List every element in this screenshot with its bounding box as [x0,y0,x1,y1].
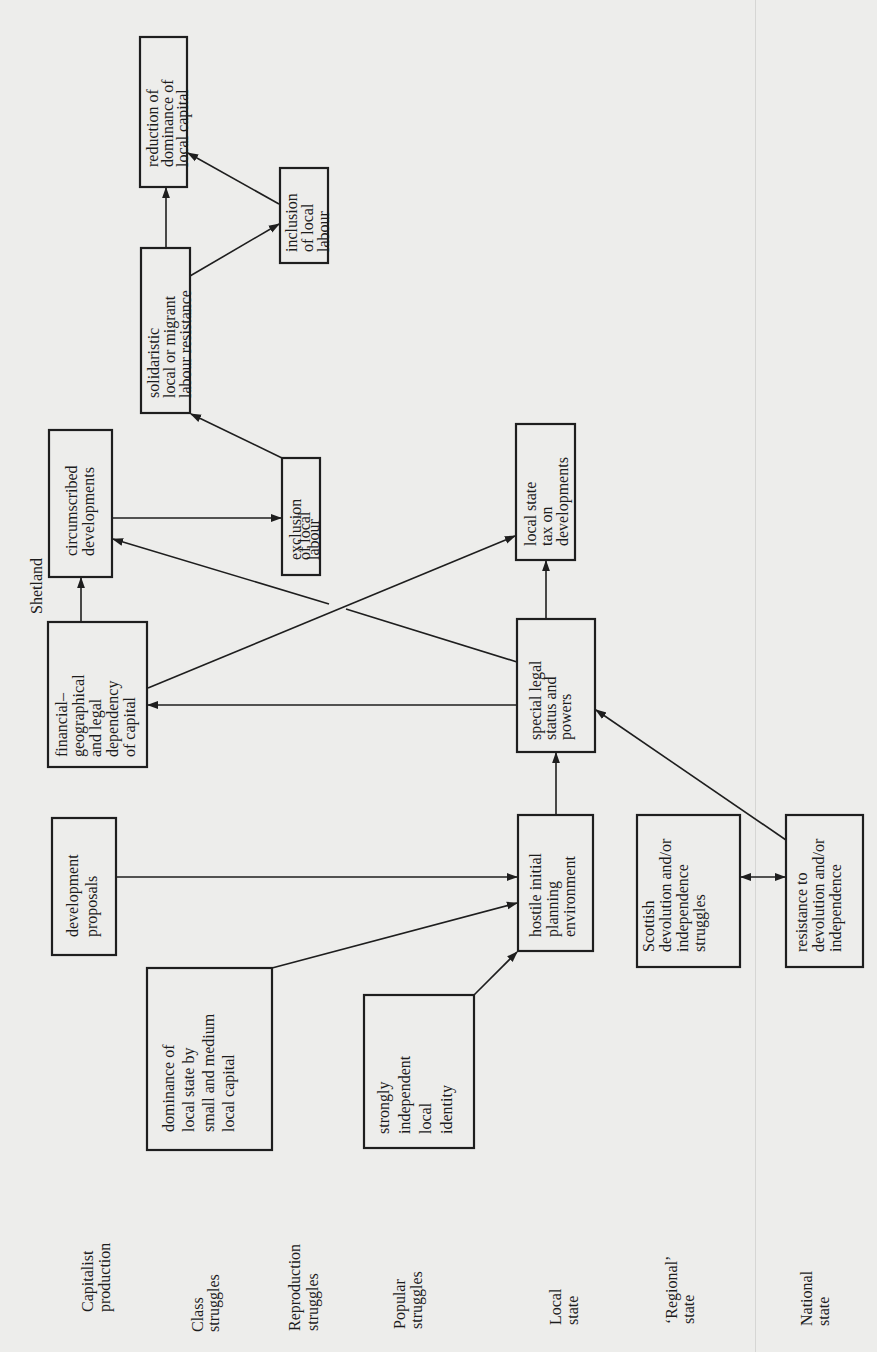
scottish-devolution-label-line: devolution and/or [657,838,674,952]
row-label-capitalist-production: Capitalist [79,1250,97,1312]
edge-dominance-to-hostile [272,903,517,968]
row-labels: CapitalistproductionClassstrugglesReprod… [79,1243,832,1332]
row-label-popular-struggles: struggles [408,1271,426,1329]
hostile-planning-label-line: planning [544,881,562,937]
row-label-local-state: Local [547,1288,564,1325]
node-labels: developmentproposalsdominance oflocal st… [53,79,845,1134]
edge-exclusion-to-solidaristic [191,414,282,458]
scottish-devolution-label-line: struggles [691,894,709,952]
edge-identity-to-hostile [474,952,517,995]
solidaristic-resistance-label-line: solidaristic [145,328,162,398]
solidaristic-resistance-label-line: labour resistance [177,290,194,398]
resistance-devolution-label-line: independence [827,864,845,952]
local-state-tax-label-line: developments [554,457,572,546]
scottish-devolution-label-line: independence [674,864,692,952]
inclusion-local-labour-label-line: inclusion [283,193,300,252]
row-label-reproduction-struggles: Reproduction [286,1244,304,1331]
resistance-devolution-label-line: devolution and/or [810,838,827,952]
dominance-local-state-label-line: local state by [180,1048,198,1132]
strongly-independent-label-line: identity [438,1085,456,1134]
row-label-local-state: state [564,1296,581,1325]
dominance-local-state-label-line: local capital [220,1054,238,1132]
reduction-dominance-label-line: local capital [174,89,192,167]
special-legal-status-label-line: powers [557,694,575,740]
row-label-national-state: National [798,1270,815,1326]
circumscribed-developments-label-line: circumscribed [63,465,80,556]
local-state-tax-label-line: tax on [538,506,555,546]
development-proposals-label-line: development [64,854,82,937]
financial-dependency-label-line: geographical [70,674,88,757]
row-label-class-struggles: struggles [205,1274,223,1332]
row-label-national-state: state [815,1297,832,1326]
inclusion-local-labour-label-line: labour [315,210,332,252]
financial-dependency-label-line: and legal [87,698,105,757]
diagram-canvas: developmentproposalsdominance oflocal st… [0,0,877,1352]
dominance-local-state-label-line: dominance of [160,1044,177,1132]
row-label-regional-state: ‘Regional’ [663,1256,681,1324]
edge-solidaristic-to-inclusion [190,224,279,276]
edge-resistance-to-special [596,710,786,840]
row-label-capitalist-production: production [96,1243,114,1312]
edge-financial-to-tax [148,536,515,688]
strongly-independent-label-line: local [417,1102,434,1134]
financial-dependency-label-line: dependency [104,681,122,757]
development-proposals-label-line: proposals [83,876,101,937]
row-label-regional-state: state [680,1295,697,1324]
scottish-devolution-label-line: Scottish [640,900,657,952]
edge-inclusion-to-reduction [188,153,279,204]
row-label-class-struggles: Class [189,1297,206,1332]
row-label-popular-struggles: Popular [391,1279,409,1329]
financial-dependency-label-line: of capital [121,696,139,757]
strongly-independent-label-line: strongly [375,1082,393,1134]
row-label-reproduction-struggles: struggles [304,1273,322,1331]
region-label-shetland: Shetland [28,558,45,614]
circumscribed-developments-label-line: developments [80,467,98,556]
strongly-independent-label-line: independent [396,1055,414,1134]
resistance-devolution-label-line: resistance to [793,872,810,952]
hostile-planning-label-line: environment [561,856,578,937]
hostile-planning-label-line: hostile initial [527,852,544,937]
dominance-local-state-label-line: small and medium [200,1013,217,1132]
exclusion-local-labour-label-line: labour [305,518,322,560]
inclusion-local-labour-label-line: of local [299,203,316,252]
edge-special-to-circumscribed-a [346,609,517,662]
local-state-tax-label-line: local state [522,482,539,546]
financial-dependency-label-line: financial– [53,692,70,757]
